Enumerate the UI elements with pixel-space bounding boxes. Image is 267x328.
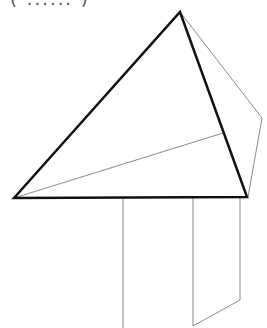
bold-triangle [14,12,247,198]
back-edge [180,12,262,197]
interior-line [14,133,223,198]
prism-bottom-diagonal [193,300,240,326]
geometry-figure [0,0,267,328]
